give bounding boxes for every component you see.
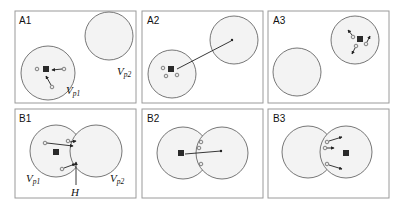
panel-label: A2 — [147, 15, 160, 26]
particle — [199, 162, 203, 166]
diagram-figure: A1 Vp1 Vp2 A2 A3 — [0, 0, 402, 207]
particle — [62, 67, 66, 71]
site-marker — [53, 149, 59, 155]
particle — [354, 44, 358, 48]
particle — [325, 162, 329, 166]
particle — [197, 146, 201, 150]
panel-a3: A3 — [268, 11, 389, 103]
particle — [164, 74, 168, 78]
panel-a1: A1 Vp1 Vp2 — [15, 11, 136, 103]
particle — [43, 141, 47, 145]
panel-label: B3 — [273, 113, 286, 124]
particle — [60, 167, 64, 171]
site-marker — [168, 66, 174, 72]
particle — [35, 67, 39, 71]
particle — [66, 139, 70, 143]
particle — [199, 140, 203, 144]
particle — [325, 140, 329, 144]
region-vp2 — [85, 12, 133, 60]
panel-b1: B1 Vp1 Vp2 H — [15, 109, 136, 198]
region-vp2 — [70, 125, 122, 177]
region-vp1 — [273, 48, 321, 96]
panel-label: B1 — [19, 113, 32, 124]
site-marker — [43, 66, 49, 72]
label-h: H — [70, 186, 80, 198]
particle — [323, 146, 327, 150]
panel-label: A1 — [19, 15, 32, 26]
panel-label: A3 — [273, 15, 286, 26]
center-dot — [231, 39, 233, 41]
center-dot — [220, 150, 222, 152]
panel-label: B2 — [147, 113, 160, 124]
particle — [175, 73, 179, 77]
region-vp2 — [331, 16, 379, 64]
particle — [50, 85, 54, 89]
site-marker — [357, 36, 363, 42]
site-marker — [343, 150, 349, 156]
panel-b2: B2 — [142, 109, 263, 198]
particle — [351, 35, 355, 39]
particle — [161, 66, 165, 70]
panel-b3: B3 — [268, 109, 389, 198]
panel-a2: A2 — [142, 11, 263, 103]
particle — [364, 42, 368, 46]
region-vp1 — [148, 50, 196, 98]
region-vp2 — [210, 16, 258, 64]
region-vp2 — [196, 127, 248, 179]
site-marker — [178, 150, 184, 156]
